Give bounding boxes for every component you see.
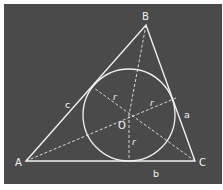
vertex-label-a: A <box>15 157 22 168</box>
vertex-label-c: C <box>199 157 206 168</box>
side-label-a: a <box>184 109 190 120</box>
side-label-b: b <box>153 168 159 179</box>
center-label-o: O <box>118 120 126 131</box>
vertex-label-b: B <box>142 11 149 22</box>
bisector-c <box>94 88 195 161</box>
side-label-c: c <box>65 99 70 110</box>
bisector-b <box>129 25 146 115</box>
radius-label: r <box>132 137 137 147</box>
incircle-diagram: A B C c a b O r r r <box>0 0 223 190</box>
radius-label: r <box>150 98 155 108</box>
radius-label: r <box>113 92 118 102</box>
